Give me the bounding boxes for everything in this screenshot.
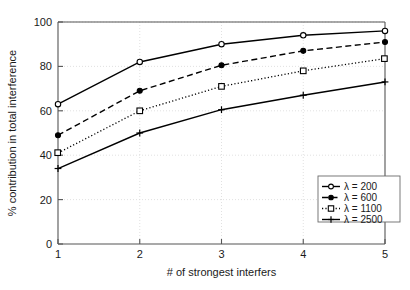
data-point <box>300 68 306 74</box>
legend-label: λ = 2500 <box>344 214 383 225</box>
y-tick-label: 40 <box>40 149 52 161</box>
y-tick-label: 60 <box>40 105 52 117</box>
chart-legend[interactable]: λ = 200 λ = 600 λ = 1100 <box>318 176 400 225</box>
y-axis-title: % contribution in total interference <box>6 50 18 216</box>
chart-figure: 0 20 40 60 80 100 1 2 3 4 5 # of stronge… <box>0 0 410 290</box>
data-point <box>55 150 61 156</box>
data-point <box>137 59 142 64</box>
legend-label: λ = 200 <box>344 181 378 192</box>
legend-marker-open-circle-icon <box>329 184 334 189</box>
legend-marker-open-square-icon <box>328 206 333 211</box>
y-tick-label: 80 <box>40 60 52 72</box>
x-tick-label: 1 <box>55 248 61 260</box>
chart-canvas: 0 20 40 60 80 100 1 2 3 4 5 # of stronge… <box>0 0 410 290</box>
data-point <box>137 88 142 93</box>
x-tick-label: 5 <box>382 248 388 260</box>
y-tick-label: 20 <box>40 194 52 206</box>
x-tick-label: 4 <box>300 248 306 260</box>
x-axis-title: # of strongest interfers <box>167 266 277 278</box>
x-tick-label: 2 <box>137 248 143 260</box>
data-point <box>55 101 60 106</box>
data-point <box>56 133 61 138</box>
x-axis-tick-labels: 1 2 3 4 5 <box>55 248 388 260</box>
data-point <box>383 40 388 45</box>
y-tick-label: 100 <box>34 16 52 28</box>
legend-label: λ = 1100 <box>344 203 382 214</box>
x-tick-label: 3 <box>218 248 224 260</box>
data-point <box>219 63 224 68</box>
data-point <box>382 56 388 62</box>
legend-marker-filled-circle-icon <box>329 195 334 200</box>
data-point <box>219 42 224 47</box>
data-point <box>137 108 143 114</box>
data-point <box>301 48 306 53</box>
data-point <box>382 28 387 33</box>
legend-label: λ = 600 <box>344 192 378 203</box>
y-tick-label: 0 <box>46 238 52 250</box>
data-point <box>219 84 225 90</box>
data-point <box>301 33 306 38</box>
y-axis-tick-labels: 0 20 40 60 80 100 <box>34 16 52 250</box>
